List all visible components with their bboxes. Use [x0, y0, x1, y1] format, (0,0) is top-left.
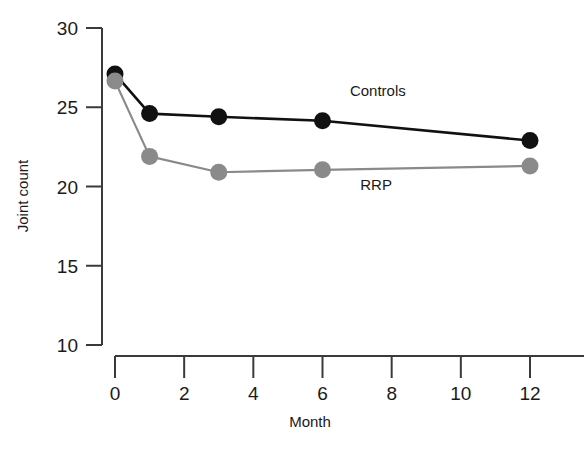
y-tick-label: 10	[57, 335, 78, 356]
series-label-rrp: RRP	[360, 176, 392, 193]
x-tick-label: 2	[179, 383, 190, 404]
data-point	[210, 164, 227, 181]
y-tick-label: 20	[57, 177, 78, 198]
line-chart: 1015202530 024681012 ControlsRRP Month J…	[0, 0, 584, 460]
x-tick-label: 8	[386, 383, 397, 404]
x-tick-label: 6	[317, 383, 328, 404]
data-point	[107, 73, 124, 90]
y-axis-title: Joint count	[14, 159, 31, 232]
y-axis-tick-labels: 1015202530	[57, 18, 78, 356]
chart-container: 1015202530 024681012 ControlsRRP Month J…	[0, 0, 584, 460]
y-tick-label: 15	[57, 256, 78, 277]
x-axis-tick-labels: 024681012	[110, 383, 541, 404]
data-point	[210, 108, 227, 125]
x-tick-label: 10	[450, 383, 471, 404]
y-tick-label: 25	[57, 97, 78, 118]
data-point	[522, 157, 539, 174]
series-line-controls	[115, 74, 530, 141]
data-point	[141, 105, 158, 122]
series-markers	[107, 65, 539, 180]
x-axis-title: Month	[289, 413, 331, 430]
x-tick-label: 0	[110, 383, 121, 404]
data-point	[314, 112, 331, 129]
y-tick-label: 30	[57, 18, 78, 39]
x-tick-label: 4	[248, 383, 259, 404]
data-point	[522, 132, 539, 149]
data-point	[314, 161, 331, 178]
series-annotations: ControlsRRP	[350, 82, 406, 193]
x-tick-label: 12	[519, 383, 540, 404]
data-point	[141, 148, 158, 165]
y-axis-ticks	[86, 28, 102, 345]
x-axis-ticks	[115, 356, 530, 378]
series-label-controls: Controls	[350, 82, 406, 99]
